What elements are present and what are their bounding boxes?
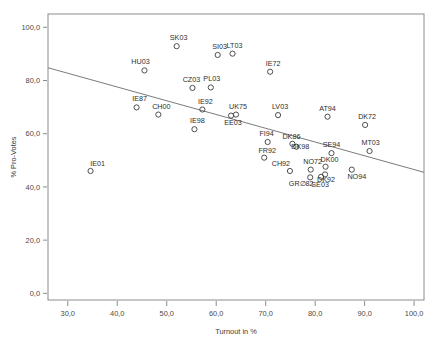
data-point: UK75	[229, 102, 247, 118]
data-point-label: DK72	[358, 112, 376, 121]
data-point-label: SE94	[323, 140, 341, 149]
x-axis-title: Turnout in %	[215, 327, 257, 336]
data-point-marker	[233, 112, 238, 117]
data-point-label: DK98	[291, 142, 309, 151]
data-point: SK03	[170, 33, 188, 49]
y-axis-title: % Pro-Votes	[9, 136, 18, 177]
data-point-label: CH92	[272, 159, 290, 168]
data-point-marker	[190, 85, 195, 90]
data-point: IE01	[88, 159, 105, 174]
y-tick-label: 80,0	[26, 76, 40, 85]
x-tick-label: 30,0	[61, 309, 75, 318]
data-point-marker	[88, 168, 93, 173]
data-point-label: IE98	[190, 116, 205, 125]
data-point-label: AT94	[319, 104, 336, 113]
data-point-marker	[367, 148, 372, 153]
data-point: CH92	[272, 159, 293, 174]
data-point-label: IE92	[198, 97, 213, 106]
data-point: LT03	[227, 41, 243, 57]
data-point: IE72	[266, 59, 281, 75]
data-point-marker	[174, 44, 179, 49]
data-point: LV03	[272, 102, 288, 118]
data-point: IE92	[198, 97, 213, 113]
data-point: DK92	[317, 172, 335, 185]
data-point-label: LV03	[272, 102, 288, 111]
data-point-label: PL03	[203, 74, 220, 83]
data-point-label: FR92	[258, 146, 276, 155]
data-point-label: MT03	[361, 138, 379, 147]
data-point-label: IE01	[90, 159, 105, 168]
data-point-marker	[134, 105, 139, 110]
data-point: GR∅82	[289, 175, 314, 189]
data-point: SE94	[323, 140, 341, 156]
data-point: HU03	[131, 57, 149, 73]
data-point: FI94	[259, 129, 273, 145]
x-tick-label: 40,0	[110, 309, 124, 318]
data-point: NO72	[303, 157, 322, 173]
data-point: AT94	[319, 104, 336, 120]
data-point-marker	[142, 68, 147, 73]
data-point-label: LT03	[227, 41, 243, 50]
x-tick-label: 50,0	[160, 309, 174, 318]
x-axis-ticks: 30,040,050,060,070,080,090,0100,0	[61, 301, 424, 318]
data-point-label: NO72	[303, 157, 322, 166]
data-point: MT03	[361, 138, 379, 154]
data-point-label: CZ03	[183, 75, 201, 84]
data-point: PL03	[203, 74, 220, 90]
data-point-marker	[323, 164, 328, 169]
data-point-label: GR∅82	[289, 179, 314, 188]
data-point-marker	[308, 167, 313, 172]
data-point: IE87	[132, 94, 147, 110]
y-axis-ticks: 0,020,040,060,080,0100,0	[22, 23, 48, 298]
data-point-marker	[262, 155, 267, 160]
data-point-label: NO94	[347, 172, 366, 181]
data-point-marker	[287, 168, 292, 173]
data-point: SI03	[212, 42, 227, 58]
data-point-marker	[230, 51, 235, 56]
data-point: DK98	[291, 142, 309, 151]
x-tick-label: 70,0	[258, 309, 272, 318]
data-point: NO94	[347, 167, 366, 181]
data-point-marker	[200, 107, 205, 112]
x-tick-label: 60,0	[209, 309, 223, 318]
data-points-layer: IE01HU03IE87CH00SK03CZ03IE98IE92PL03SI03…	[88, 33, 380, 189]
data-point-marker	[156, 112, 161, 117]
x-tick-label: 100,0	[405, 309, 424, 318]
data-point: IE98	[190, 116, 205, 132]
data-point: DK72	[358, 112, 376, 128]
data-point-label: SI03	[212, 42, 227, 51]
data-point-marker	[268, 69, 273, 74]
x-tick-label: 90,0	[357, 309, 371, 318]
y-tick-label: 100,0	[22, 23, 41, 32]
y-tick-label: 0,0	[30, 289, 40, 298]
data-point-marker	[363, 122, 368, 127]
x-tick-label: 80,0	[308, 309, 322, 318]
data-point-label: IE87	[132, 94, 147, 103]
data-point-marker	[275, 112, 280, 117]
data-point-label: FI94	[259, 129, 273, 138]
data-point-marker	[192, 127, 197, 132]
data-point: DK00	[321, 155, 339, 170]
data-point-marker	[215, 52, 220, 57]
data-point-label: DK92	[317, 175, 335, 184]
data-point-marker	[325, 114, 330, 119]
data-point-marker	[265, 139, 270, 144]
data-point-label: HU03	[131, 57, 149, 66]
y-tick-label: 20,0	[26, 236, 40, 245]
data-point-label: DK00	[321, 155, 339, 164]
data-point-label: IE72	[266, 59, 281, 68]
data-point-label: SK03	[170, 33, 188, 42]
data-point-label: EE03	[224, 118, 242, 127]
data-point-label: DK86	[282, 132, 300, 141]
data-point: CH00	[152, 102, 170, 118]
scatter-chart: 30,040,050,060,070,080,090,0100,0 0,020,…	[0, 0, 437, 342]
y-tick-label: 60,0	[26, 129, 40, 138]
data-point-marker	[208, 85, 213, 90]
data-point: CZ03	[183, 75, 201, 91]
data-point-label: UK75	[229, 102, 247, 111]
chart-canvas: 30,040,050,060,070,080,090,0100,0 0,020,…	[0, 0, 437, 342]
data-point-label: CH00	[152, 102, 170, 111]
y-tick-label: 40,0	[26, 183, 40, 192]
